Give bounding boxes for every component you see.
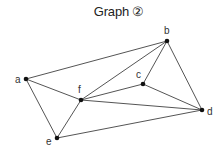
- edge-a-b: [26, 41, 167, 79]
- edge-f-e: [57, 100, 81, 138]
- graph-nodes: [24, 39, 205, 141]
- node-f: [79, 98, 84, 103]
- edge-b-f: [81, 41, 167, 100]
- node-label-d: d: [207, 106, 213, 117]
- node-label-a: a: [15, 74, 21, 85]
- node-label-c: c: [136, 69, 141, 80]
- node-a: [24, 77, 29, 82]
- edge-e-d: [57, 110, 202, 138]
- node-c: [141, 82, 146, 87]
- node-label-f: f: [78, 84, 81, 95]
- node-e: [55, 136, 60, 141]
- edge-a-f: [26, 79, 81, 100]
- node-label-b: b: [164, 25, 170, 36]
- node-label-e: e: [46, 136, 52, 147]
- node-b: [165, 39, 170, 44]
- edge-b-d: [167, 41, 202, 110]
- graph-diagram: abcdef: [0, 0, 224, 153]
- edge-c-f: [81, 84, 143, 100]
- edge-b-c: [143, 41, 167, 84]
- node-d: [200, 108, 205, 113]
- graph-edges: [26, 41, 202, 138]
- edge-a-e: [26, 79, 57, 138]
